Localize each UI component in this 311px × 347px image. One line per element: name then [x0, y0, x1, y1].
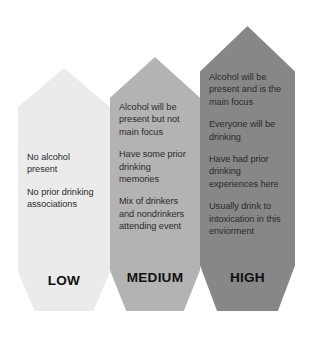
risk-arrow-medium-line-2: Have some prior drinking memories [119, 148, 191, 185]
risk-level-diagram: No alcohol present No prior drinking ass… [0, 0, 311, 347]
risk-arrow-low-label: LOW [18, 273, 110, 288]
risk-arrow-medium-line-3: Mix of drinkers and nondrinkers attendin… [119, 195, 191, 232]
risk-arrow-high-line-1: Alcohol will be present and is the main … [209, 71, 286, 108]
risk-arrow-high-label: HIGH [200, 270, 295, 285]
risk-arrow-low-line-1: No alcohol present [27, 151, 101, 176]
risk-arrow-low: No alcohol present No prior drinking ass… [18, 68, 110, 311]
risk-arrow-medium: Alcohol will be present but not main foc… [110, 57, 200, 311]
risk-arrow-low-line-2: No prior drinking associations [27, 186, 101, 211]
risk-arrow-low-content: No alcohol present No prior drinking ass… [18, 151, 110, 211]
risk-arrow-high-line-3: Have had prior drinking experiences here [209, 153, 286, 190]
risk-arrow-high-line-2: Everyone will be drinking [209, 118, 286, 143]
risk-arrow-high-content: Alcohol will be present and is the main … [200, 71, 295, 237]
risk-arrow-high-line-4: Usually drink to intoxication in this en… [209, 200, 286, 237]
risk-arrow-high: Alcohol will be present and is the main … [200, 26, 295, 311]
risk-arrow-medium-line-1: Alcohol will be present but not main foc… [119, 101, 191, 138]
risk-arrow-medium-label: MEDIUM [110, 270, 200, 285]
risk-arrow-medium-content: Alcohol will be present but not main foc… [110, 101, 200, 233]
